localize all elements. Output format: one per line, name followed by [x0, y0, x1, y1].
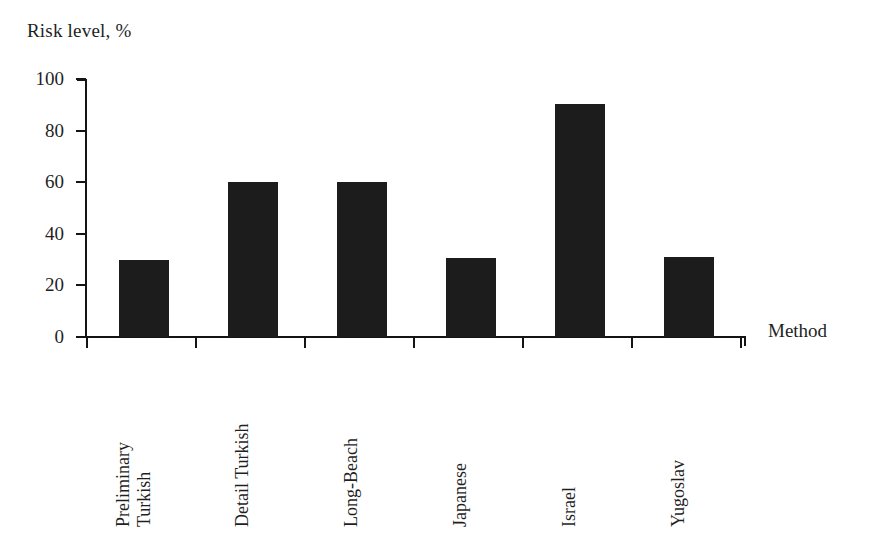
y-axis-tick-label: 0 — [18, 327, 64, 346]
category-label-line: Japanese — [450, 463, 470, 527]
y-axis-tick-label: 60 — [18, 172, 64, 191]
y-axis-tick-label: 40 — [18, 224, 64, 243]
category-label-line: Israel — [559, 487, 579, 527]
x-axis-tick — [413, 337, 415, 348]
y-axis-tick-label: 80 — [18, 121, 64, 140]
y-axis-tick — [76, 336, 86, 338]
x-axis-category-label: Japanese — [450, 463, 471, 527]
bar — [446, 258, 496, 337]
y-axis-tick — [76, 284, 86, 286]
x-axis-tick — [86, 337, 88, 348]
bar — [555, 104, 605, 337]
x-axis-category-label: PreliminaryTurkish — [113, 442, 155, 527]
bar-chart: Risk level, % Method 100806040200 Prelim… — [0, 0, 889, 546]
category-label-line: Preliminary — [113, 442, 133, 527]
category-label-line: Detail Turkish — [232, 423, 252, 527]
y-axis-tick — [76, 130, 86, 132]
x-axis-category-label: Israel — [559, 487, 580, 527]
y-axis-tick-label: 100 — [18, 69, 64, 88]
x-axis-category-label: Detail Turkish — [232, 423, 253, 527]
category-label-line: Turkish — [134, 442, 155, 527]
plot-area: 100806040200 PreliminaryTurkishDetail Tu… — [0, 0, 889, 546]
x-axis-tick — [631, 337, 633, 348]
y-axis-tick — [76, 233, 86, 235]
x-axis-tick — [522, 337, 524, 348]
y-axis-line — [85, 79, 87, 338]
x-axis-tick — [304, 337, 306, 348]
y-axis-tick-label: 20 — [18, 275, 64, 294]
bar — [664, 257, 714, 337]
x-axis-end-cap — [744, 336, 746, 346]
x-axis-line — [85, 336, 746, 338]
bar — [228, 182, 278, 337]
category-label-line: Long-Beach — [341, 438, 361, 527]
x-axis-category-label: Long-Beach — [341, 438, 362, 527]
x-axis-category-label: Yugoslav — [668, 460, 689, 527]
y-axis-tick — [76, 181, 86, 183]
y-axis-tick — [76, 78, 86, 80]
bar — [337, 182, 387, 337]
bar — [119, 260, 169, 337]
x-axis-tick — [195, 337, 197, 348]
category-label-line: Yugoslav — [668, 460, 688, 527]
x-axis-tick — [740, 337, 742, 348]
